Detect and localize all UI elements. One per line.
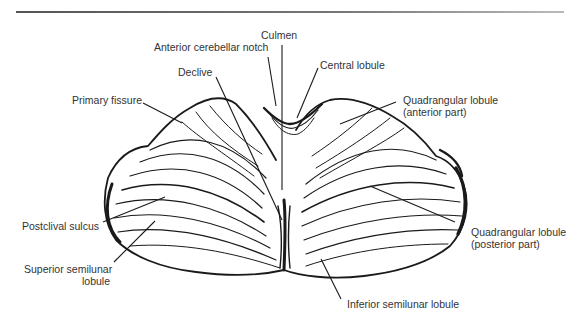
leader-quadrangular-posterior [370,186,455,222]
leader-anterior-notch [268,57,276,106]
label-anterior-cerebellar-notch: Anterior cerebellar notch [154,41,268,53]
leader-primary-fissure [143,103,182,123]
leader-inferior-semilunar [321,259,341,299]
label-line: (anterior part) [403,106,498,118]
label-line: lobule [24,275,110,287]
label-culmen: Culmen [261,29,297,41]
label-quadrangular-lobule-posterior: Quadrangular lobule (posterior part) [471,226,566,250]
label-declive: Declive [178,66,212,78]
label-postclival-sulcus: Postclival sulcus [22,220,99,232]
anterior-notch-shape [264,104,322,124]
label-quadrangular-lobule-anterior: Quadrangular lobule (anterior part) [403,94,498,118]
label-line: Quadrangular lobule [471,226,566,238]
vermis-midline [284,200,285,270]
label-inferior-semilunar-lobule: Inferior semilunar lobule [347,298,459,310]
label-line: (posterior part) [471,238,566,250]
label-superior-semilunar-lobule: Superior semilunar lobule [24,263,110,287]
label-primary-fissure: Primary fissure [72,94,142,106]
label-line: Superior semilunar [24,263,110,275]
label-central-lobule: Central lobule [320,59,385,71]
label-line: Quadrangular lobule [403,94,498,106]
